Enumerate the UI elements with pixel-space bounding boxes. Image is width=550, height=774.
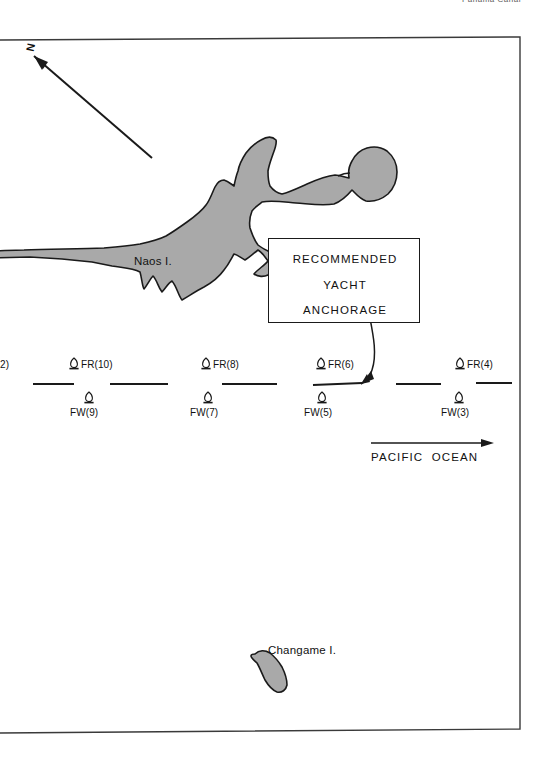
light-label-fw7: FW(7) bbox=[190, 408, 218, 418]
channel-dash-segments bbox=[33, 383, 512, 385]
light-beacon-icon bbox=[84, 392, 93, 403]
light-label-fw9: FW(9) bbox=[70, 408, 98, 418]
light-beacon-icon bbox=[454, 392, 463, 403]
callout-line-3: ANCHORAGE bbox=[269, 305, 421, 317]
light-label-fw5: FW(5) bbox=[304, 408, 332, 418]
nautical-chart: Panama Canal bbox=[0, 0, 550, 774]
light-beacon-icon bbox=[316, 358, 325, 369]
light-label-fr10: FR(10) bbox=[81, 360, 113, 370]
landmass-changame bbox=[251, 651, 287, 692]
callout-line-2: YACHT bbox=[269, 280, 421, 292]
recommended-anchorage-callout: RECOMMENDED YACHT ANCHORAGE bbox=[268, 238, 420, 323]
light-beacon-symbols bbox=[69, 358, 464, 403]
light-label-fr4: FR(4) bbox=[467, 360, 493, 370]
light-label-fr12-clipped: 2) bbox=[0, 360, 9, 370]
light-beacon-icon bbox=[203, 392, 212, 403]
map-canvas bbox=[0, 0, 550, 774]
pacific-ocean-arrow bbox=[371, 439, 494, 447]
light-label-fr6: FR(6) bbox=[328, 360, 354, 370]
light-label-fw3: FW(3) bbox=[441, 408, 469, 418]
light-beacon-icon bbox=[317, 392, 326, 403]
light-beacon-icon bbox=[455, 358, 464, 369]
label-changame-island: Changame I. bbox=[268, 645, 336, 657]
light-label-fr8: FR(8) bbox=[213, 360, 239, 370]
channel-dash bbox=[313, 383, 362, 385]
light-beacon-icon bbox=[201, 358, 210, 369]
label-pacific-ocean: PACIFIC OCEAN bbox=[371, 452, 478, 464]
label-naos-island: Naos I. bbox=[134, 256, 172, 268]
light-beacon-icon bbox=[69, 358, 78, 369]
north-arrow-icon bbox=[34, 56, 152, 158]
callout-line-1: RECOMMENDED bbox=[269, 254, 421, 266]
